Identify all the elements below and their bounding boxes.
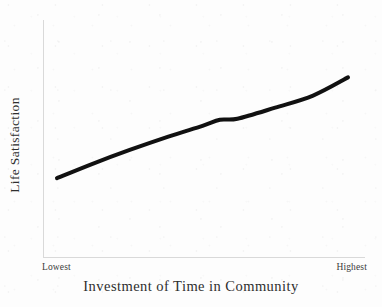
x-tick-label-lowest: Lowest (42, 262, 71, 272)
paper-grain-texture (0, 0, 382, 307)
y-axis-title: Life Satisfaction (7, 97, 23, 193)
x-axis-line (43, 257, 365, 258)
plot-line-svg (0, 0, 382, 307)
y-axis-line (43, 20, 44, 258)
trend-line-path (57, 77, 348, 178)
x-axis-title: Investment of Time in Community (0, 278, 382, 295)
y-axis-title-wrapper: Life Satisfaction (0, 0, 30, 307)
chart-figure: Lowest Highest Investment of Time in Com… (0, 0, 382, 307)
x-tick-label-highest: Highest (336, 262, 367, 272)
